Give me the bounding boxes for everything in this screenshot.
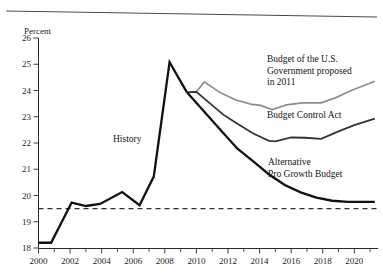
- y-tick-label-18: 18: [22, 243, 32, 253]
- x-tick-label-2008: 2008: [156, 256, 175, 266]
- x-axis: 2000200220042006200820102012201420162018…: [30, 249, 379, 267]
- line-chart: Percent 181920212223242526 2000200220042…: [0, 0, 383, 278]
- history-annotation: History: [113, 134, 142, 144]
- x-tick-label-2014: 2014: [251, 256, 270, 266]
- plot-area: [39, 62, 378, 243]
- budget-control-act-annotation-line-1: Budget Control Act: [267, 110, 342, 120]
- y-tick-label-23: 23: [22, 112, 32, 122]
- budget-control-act-annotation: Budget Control Act: [267, 110, 342, 120]
- alternative-pro-growth-annotation-line-1: Alternative: [268, 157, 311, 167]
- budget-us-gov-annotation-line-1: Budget of the U.S.: [267, 54, 338, 64]
- x-tick-label-2012: 2012: [219, 256, 237, 266]
- budget-us-gov-annotation: Budget of the U.S.Government proposedin …: [267, 54, 352, 87]
- series-line-history: [39, 62, 187, 243]
- x-tick-label-2000: 2000: [30, 256, 49, 266]
- y-tick-label-21: 21: [22, 164, 31, 174]
- x-tick-group: 2000200220042006200820102012201420162018…: [30, 249, 371, 267]
- x-tick-label-2010: 2010: [187, 256, 206, 266]
- x-tick-label-2002: 2002: [61, 256, 79, 266]
- budget-us-gov-annotation-line-3: in 2011: [267, 77, 296, 87]
- y-tick-label-26: 26: [22, 33, 32, 43]
- x-tick-label-2004: 2004: [93, 256, 112, 266]
- y-tick-group: 181920212223242526: [22, 33, 39, 253]
- top-rule-divider: [6, 11, 377, 17]
- y-axis: 181920212223242526: [22, 33, 39, 253]
- y-tick-label-22: 22: [22, 138, 31, 148]
- y-tick-label-19: 19: [22, 217, 32, 227]
- x-tick-label-2016: 2016: [282, 256, 301, 266]
- x-tick-label-2006: 2006: [124, 256, 143, 266]
- history-annotation-line-1: History: [113, 134, 142, 144]
- x-tick-label-2020: 2020: [345, 256, 364, 266]
- y-tick-label-20: 20: [22, 191, 32, 201]
- budget-us-gov-annotation-line-2: Government proposed: [267, 66, 352, 76]
- figure-container: Percent 181920212223242526 2000200220042…: [0, 0, 383, 278]
- y-tick-label-25: 25: [22, 59, 32, 69]
- x-tick-label-2018: 2018: [314, 256, 333, 266]
- annotation-layer: HistoryBudget of the U.S.Government prop…: [113, 54, 352, 179]
- y-tick-label-24: 24: [22, 86, 32, 96]
- alternative-pro-growth-annotation-line-2: Pro Growth Budget: [268, 169, 343, 179]
- alternative-pro-growth-annotation: AlternativePro Growth Budget: [268, 157, 343, 179]
